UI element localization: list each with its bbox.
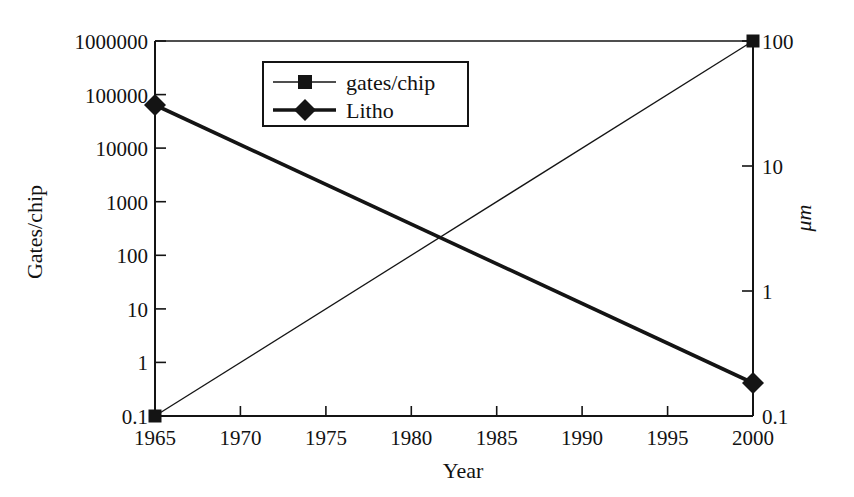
legend-label-gates-per-chip: gates/chip [346,70,435,95]
x-tick-label-1990: 1990 [561,426,603,450]
left-tick-label-100000: 100000 [85,84,148,108]
y2-axis-title: μm [791,205,816,233]
left-tick-label-1: 1 [138,351,149,375]
gates-per-chip-marker-1965 [149,410,162,423]
right-tick-label-10: 10 [762,155,783,179]
x-tick-label-1995: 1995 [647,426,689,450]
x-tick-label-2000: 2000 [732,426,774,450]
left-tick-label-1000000: 1000000 [75,30,149,54]
left-tick-label-100: 100 [117,244,149,268]
x-axis-title: Year [443,458,484,483]
right-tick-label-100: 100 [762,30,794,54]
right-tick-label-1: 1 [762,280,773,304]
x-tick-label-1965: 1965 [134,426,176,450]
gates-per-chip-marker-2000 [747,35,760,48]
left-tick-label-10000: 10000 [96,137,149,161]
legend-label-litho: Litho [346,98,394,123]
y-axis-title: Gates/chip [22,185,47,279]
legend-marker-square-icon [298,75,312,89]
x-tick-label-1970: 1970 [219,426,261,450]
x-tick-label-1975: 1975 [305,426,347,450]
left-tick-label-10: 10 [127,298,148,322]
left-tick-label-1000: 1000 [106,191,148,215]
chart-container: 1000000 100000 10000 1000 100 10 1 0.1 1… [0,0,854,497]
gates-per-chip-litho-chart: 1000000 100000 10000 1000 100 10 1 0.1 1… [0,0,854,497]
x-tick-label-1980: 1980 [390,426,432,450]
legend: gates/chip Litho [263,62,468,126]
x-tick-label-1985: 1985 [476,426,518,450]
